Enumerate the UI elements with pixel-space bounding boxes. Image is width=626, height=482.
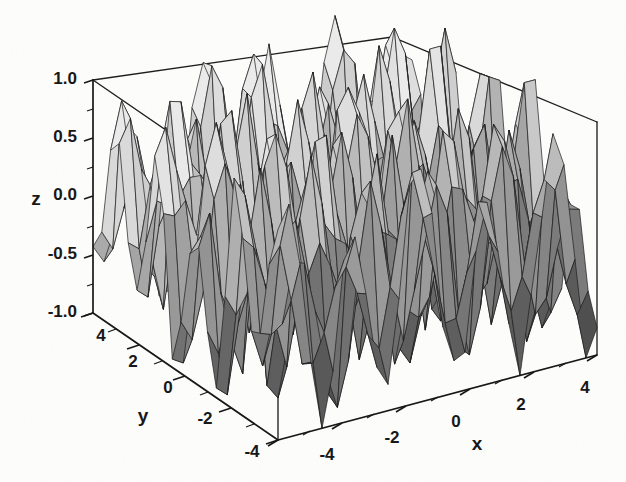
z-tick-label-5: -1.0 <box>48 302 77 321</box>
z-tick-label-4: -0.5 <box>48 244 77 263</box>
x-tick-label-1: -4 <box>319 445 335 464</box>
z-tick-label-2: 0.5 <box>53 127 77 146</box>
x-tick-label-3: 0 <box>451 412 460 431</box>
y-tick-label-3: 0 <box>163 378 172 397</box>
x-axis-label: x <box>472 433 483 454</box>
x-tick-label-4: 2 <box>516 395 525 414</box>
plot-canvas: 1.0 0.5 0.0 -0.5 -1.0 z 4 2 0 -2 -4 <box>0 0 626 482</box>
y-axis-label: y <box>138 405 149 426</box>
x-tick-label-5: 4 <box>580 378 590 397</box>
z-tick-label-3: 0.0 <box>53 185 77 204</box>
y-tick-label-5: -4 <box>244 442 260 461</box>
x-tick-label-2: -2 <box>384 428 399 447</box>
y-tick-label-4: -2 <box>197 409 212 428</box>
y-tick-label-2: 2 <box>128 352 137 371</box>
surface-plot-figure: 1.0 0.5 0.0 -0.5 -1.0 z 4 2 0 -2 -4 <box>0 0 626 482</box>
y-tick-label-1: 4 <box>96 326 106 345</box>
z-axis-label: z <box>31 188 41 209</box>
z-tick-label-1: 1.0 <box>53 69 77 88</box>
